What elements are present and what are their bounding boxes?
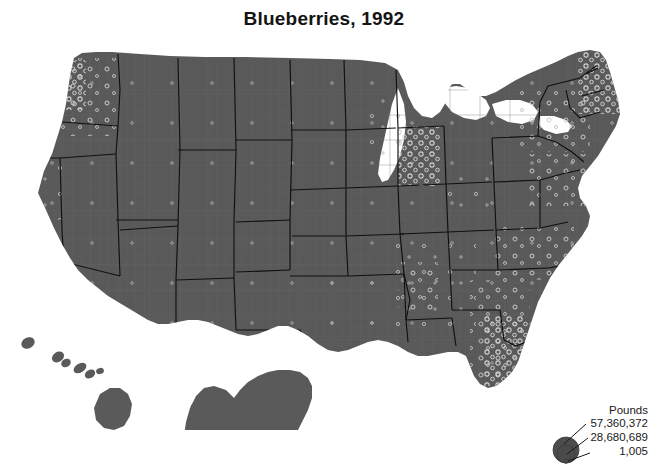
legend-value-medium: 28,680,689	[590, 431, 648, 443]
legend-value-large: 57,360,372	[590, 417, 648, 429]
map-land-layer	[19, 45, 630, 430]
legend-circle-small	[564, 459, 568, 463]
proportional-symbol-legend: Pounds 57,360,372 28,680,689 1,005	[548, 404, 648, 474]
map-figure: Blueberries, 1992	[0, 0, 648, 476]
hawaii-inset	[19, 335, 132, 430]
us-county-map[interactable]	[0, 30, 648, 430]
legend-title: Pounds	[609, 404, 648, 416]
page-title: Blueberries, 1992	[0, 8, 648, 30]
alaska-inset	[112, 370, 312, 430]
legend-value-small: 1,005	[619, 445, 648, 457]
